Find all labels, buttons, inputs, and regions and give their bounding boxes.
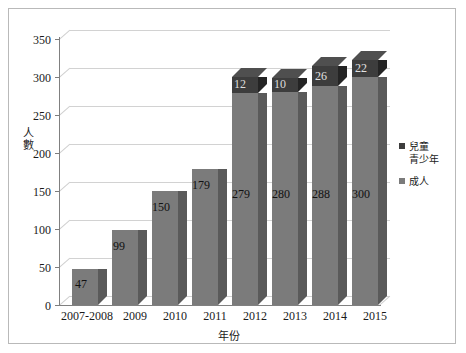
- legend-swatch-adult: [399, 178, 405, 184]
- bar-group-2007-2008[interactable]: 47: [72, 9, 102, 309]
- bar-group-2009[interactable]: 99: [112, 9, 142, 309]
- bar-face-side: [258, 77, 267, 93]
- bar-group-2012[interactable]: 12 279: [232, 9, 262, 309]
- bar-face-side: [338, 66, 347, 86]
- bar-face-top: [352, 51, 387, 60]
- y-axis-line: [59, 37, 60, 306]
- legend-label-child-line1: 兒童: [409, 140, 459, 153]
- depth-edge-300: [59, 68, 70, 78]
- bar-face-side: [338, 86, 347, 305]
- bar-group-2013[interactable]: 10 280: [272, 9, 302, 309]
- bar-value-label-adult: 288: [312, 187, 330, 202]
- bar-face-top: [232, 68, 267, 77]
- legend-label-child-line2: 青少年: [409, 153, 459, 166]
- y-tick-300: 300: [17, 73, 51, 83]
- bar-value-label-adult: 99: [113, 239, 125, 254]
- bar-value-label-adult: 47: [75, 277, 87, 292]
- bar-value-label-child: 22: [355, 61, 367, 76]
- plot-area: 350 300 250 200 150 100 50 0: [9, 9, 457, 345]
- legend-item-adult[interactable]: 成人: [399, 175, 459, 188]
- bar-value-label-child: 26: [315, 69, 327, 84]
- bar-face-side: [98, 269, 107, 305]
- depth-edge-350: [59, 30, 70, 40]
- legend-item-child[interactable]: 兒童 青少年: [399, 140, 459, 166]
- bar-value-label-adult: 150: [152, 200, 170, 215]
- y-tick-150: 150: [17, 187, 51, 197]
- bar-value-label-child: 12: [234, 77, 246, 92]
- bar-face-side: [378, 77, 387, 305]
- legend-label-adult: 成人: [409, 175, 459, 188]
- depth-edge-250: [59, 106, 70, 116]
- depth-edge-50: [59, 258, 70, 268]
- bar-value-label-child: 10: [274, 77, 286, 92]
- y-tick-50: 50: [17, 263, 51, 273]
- bar-value-label-adult: 279: [232, 187, 250, 202]
- x-axis-title: 年份: [189, 327, 269, 343]
- y-tick-350: 350: [17, 35, 51, 45]
- bar-face-side: [218, 169, 227, 305]
- bar-group-2010[interactable]: 150: [152, 9, 182, 309]
- bar-face-side: [378, 60, 387, 77]
- chart-legend: 兒童 青少年 成人: [399, 140, 459, 197]
- y-tick-250: 250: [17, 111, 51, 121]
- bar-group-2011[interactable]: 179: [192, 9, 222, 309]
- chart-frame: 350 300 250 200 150 100 50 0: [8, 8, 456, 344]
- bar-value-label-adult: 179: [192, 178, 210, 193]
- y-tick-100: 100: [17, 225, 51, 235]
- depth-edge-150: [59, 182, 70, 192]
- bar-face-side: [258, 93, 267, 305]
- depth-edge-200: [59, 144, 70, 154]
- bar-face-side: [138, 230, 147, 305]
- bar-group-2014[interactable]: 26 288: [312, 9, 342, 309]
- y-tick-0: 0: [17, 301, 51, 311]
- legend-swatch-child: [399, 143, 405, 149]
- bar-value-label-adult: 280: [272, 187, 290, 202]
- depth-edge-100: [59, 220, 70, 230]
- bar-face-top: [312, 57, 347, 66]
- bar-group-2015[interactable]: 22 300: [352, 9, 382, 309]
- bar-value-label-adult: 300: [352, 187, 370, 202]
- x-tick-2015: 2015: [345, 309, 405, 324]
- y-axis-title: 人數: [21, 127, 35, 151]
- bar-face-side: [298, 92, 307, 305]
- bar-face-side: [298, 78, 307, 92]
- bar-face-side: [178, 191, 187, 305]
